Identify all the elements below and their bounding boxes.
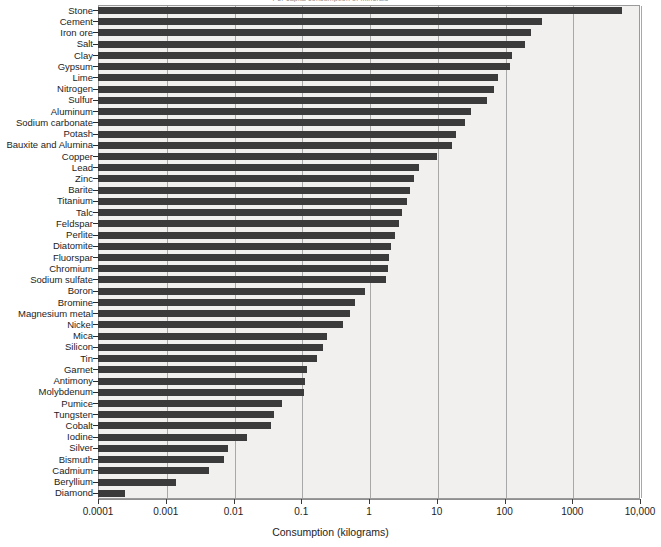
bar: [98, 198, 407, 205]
bar-row: [98, 95, 640, 106]
category-label-row: Potash: [0, 129, 98, 140]
bar-row: [98, 420, 640, 431]
category-label-row: Titanium: [0, 196, 98, 207]
bar-row: [98, 308, 640, 319]
bar-row: [98, 488, 640, 499]
bar: [98, 29, 531, 36]
bar-row: [98, 477, 640, 488]
bar-row: [98, 409, 640, 420]
category-label-row: Perlite: [0, 230, 98, 241]
bar: [98, 142, 452, 149]
category-label-row: Aluminum: [0, 106, 98, 117]
category-label: Titanium: [57, 196, 98, 206]
bar: [98, 456, 224, 463]
category-label-row: Magnesium metal: [0, 308, 98, 319]
bar: [98, 74, 498, 81]
category-label: Diamond: [55, 488, 98, 498]
category-label-row: Zinc: [0, 173, 98, 184]
chart-title: Per capita consumption of minerals: [0, 0, 661, 2]
bar-row: [98, 207, 640, 218]
bar-row: [98, 297, 640, 308]
bar: [98, 276, 386, 283]
bar: [98, 299, 355, 306]
category-label-row: Sodium carbonate: [0, 117, 98, 128]
bar: [98, 288, 365, 295]
bar: [98, 490, 125, 497]
bar-row: [98, 353, 640, 364]
x-tick: [166, 499, 167, 504]
category-label-row: Diatomite: [0, 241, 98, 252]
bar: [98, 389, 304, 396]
category-label-row: Mica: [0, 331, 98, 342]
category-label-row: Silver: [0, 443, 98, 454]
bar-row: [98, 196, 640, 207]
bar: [98, 254, 389, 261]
category-label-row: Bromine: [0, 297, 98, 308]
bar: [98, 97, 487, 104]
bar: [98, 86, 494, 93]
bar-row: [98, 39, 640, 50]
bar: [98, 422, 271, 429]
bar: [98, 187, 410, 194]
x-tick-label: 100: [496, 506, 513, 517]
bar-row: [98, 465, 640, 476]
x-tick-label: 0.01: [224, 506, 243, 517]
category-label-row: Iron ore: [0, 27, 98, 38]
category-label-row: Clay: [0, 50, 98, 61]
x-tick-label: 1: [366, 506, 372, 517]
bar: [98, 333, 327, 340]
x-tick: [437, 499, 438, 504]
category-label: Molybdenum: [39, 387, 98, 397]
bar: [98, 153, 437, 160]
bar-row: [98, 27, 640, 38]
x-tick: [234, 499, 235, 504]
bar: [98, 7, 622, 14]
bar: [98, 41, 525, 48]
bar: [98, 400, 282, 407]
category-label: Aluminum: [51, 107, 98, 117]
x-tick-label: 0.001: [153, 506, 178, 517]
category-label-row: Nickel: [0, 319, 98, 330]
category-label-row: Chromium: [0, 263, 98, 274]
x-tick: [572, 499, 573, 504]
bar-row: [98, 342, 640, 353]
x-tick-label: 10,000: [625, 506, 656, 517]
category-label-row: Cadmium: [0, 465, 98, 476]
bar: [98, 467, 209, 474]
category-label-row: Tungsten: [0, 409, 98, 420]
category-axis: StoneCementIron oreSaltClayGypsumLimeNit…: [0, 5, 98, 499]
category-label-row: Molybdenum: [0, 387, 98, 398]
bar-row: [98, 241, 640, 252]
category-label-row: Sulfur: [0, 95, 98, 106]
category-label: Magnesium metal: [18, 309, 98, 319]
category-label-row: Fluorspar: [0, 252, 98, 263]
bar-row: [98, 84, 640, 95]
category-label: Sodium sulfate: [30, 275, 98, 285]
category-label-row: Cobalt: [0, 420, 98, 431]
bar: [98, 220, 399, 227]
bar: [98, 378, 305, 385]
bar-row: [98, 140, 640, 151]
category-label: Feldspar: [56, 219, 98, 229]
bar: [98, 18, 542, 25]
bar: [98, 164, 419, 171]
category-label-row: Nitrogen: [0, 84, 98, 95]
category-label: Sodium carbonate: [16, 118, 98, 128]
bar-row: [98, 16, 640, 27]
category-label-row: Boron: [0, 286, 98, 297]
bar: [98, 265, 388, 272]
category-label-row: Bismuth: [0, 454, 98, 465]
category-label-row: Iodine: [0, 432, 98, 443]
category-label: Gypsum: [58, 62, 98, 72]
bar: [98, 479, 176, 486]
x-tick-label: 10: [431, 506, 442, 517]
category-label-row: Sodium sulfate: [0, 274, 98, 285]
category-label-row: Salt: [0, 39, 98, 50]
bar: [98, 243, 391, 250]
category-label-row: Bauxite and Alumina: [0, 140, 98, 151]
category-label: Fluorspar: [53, 253, 98, 263]
category-label: Beryllium: [54, 477, 98, 487]
bar-row: [98, 162, 640, 173]
bars-container: [98, 5, 640, 499]
category-label-row: Beryllium: [0, 477, 98, 488]
